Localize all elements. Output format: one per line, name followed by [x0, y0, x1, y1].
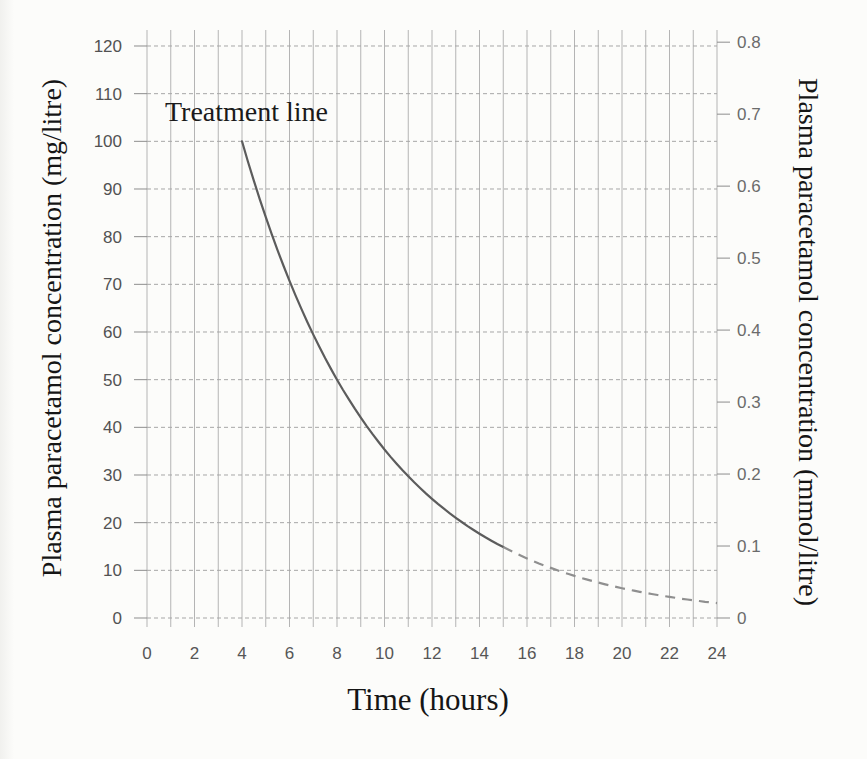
x-tick-label: 16	[518, 644, 537, 663]
right-tick-label: 0.6	[737, 177, 761, 196]
left-tick-label: 20	[103, 514, 122, 533]
x-tick-label: 22	[660, 644, 679, 663]
treatment-line-dashed	[503, 547, 717, 603]
left-tick-label: 0	[113, 609, 122, 628]
x-tick-label: 20	[613, 644, 632, 663]
x-tick-label: 6	[285, 644, 294, 663]
left-tick-label: 30	[103, 466, 122, 485]
x-tick-label: 24	[708, 644, 727, 663]
right-tick-labels: 00.10.20.30.40.50.60.70.8	[737, 33, 761, 628]
x-tick-label: 4	[237, 644, 246, 663]
left-y-axis-title: Plasma paracetamol concentration (mg/lit…	[36, 79, 68, 577]
left-tick-label: 50	[103, 371, 122, 390]
left-tick-labels: 0102030405060708090100110120	[94, 37, 122, 628]
x-tick-label: 2	[190, 644, 199, 663]
left-tick-label: 110	[95, 85, 122, 104]
right-tick-label: 0.2	[737, 465, 761, 484]
treatment-line-solid	[242, 141, 503, 547]
x-tick-label: 12	[423, 644, 442, 663]
left-tick-label: 120	[94, 37, 122, 56]
right-tick-label: 0.1	[737, 537, 761, 556]
left-tick-label: 80	[103, 228, 122, 247]
right-tick-label: 0.7	[737, 105, 761, 124]
x-tick-label: 10	[375, 644, 394, 663]
left-tick-label: 70	[103, 275, 122, 294]
right-y-axis-title: Plasma paracetamol concentration (mmol/l…	[792, 78, 824, 606]
chart-plot-area: 010203040506070809010011012000.10.20.30.…	[0, 0, 867, 759]
right-tick-label: 0.4	[737, 321, 761, 340]
x-axis-title: Time (hours)	[347, 682, 509, 718]
right-axis-ticks	[717, 42, 730, 618]
paracetamol-nomogram-figure: 010203040506070809010011012000.10.20.30.…	[0, 0, 867, 759]
x-tick-label: 18	[565, 644, 584, 663]
treatment-line-annotation: Treatment line	[165, 96, 328, 128]
x-tick-labels: 024681012141618202224	[142, 644, 726, 663]
right-tick-label: 0.8	[737, 33, 761, 52]
left-tick-label: 100	[94, 132, 122, 151]
right-tick-label: 0	[737, 609, 746, 628]
right-tick-label: 0.3	[737, 393, 761, 412]
left-tick-label: 90	[103, 180, 122, 199]
right-tick-label: 0.5	[737, 249, 761, 268]
left-tick-label: 60	[103, 323, 122, 342]
x-tick-label: 8	[332, 644, 341, 663]
left-axis-ticks	[134, 46, 147, 618]
x-tick-label: 0	[142, 644, 151, 663]
left-tick-label: 10	[103, 561, 122, 580]
left-tick-label: 40	[103, 418, 122, 437]
x-tick-label: 14	[470, 644, 489, 663]
